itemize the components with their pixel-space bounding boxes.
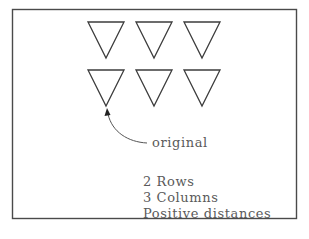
triangle-r1-c2 bbox=[136, 22, 172, 58]
triangle-array bbox=[88, 22, 220, 106]
note-rows: 2 Rows bbox=[143, 174, 194, 189]
array-diagram: original 2 Rows 3 Columns Positive dista… bbox=[0, 0, 309, 239]
callout-arrow bbox=[105, 108, 148, 143]
arrowhead-icon bbox=[105, 108, 111, 116]
note-distances: Positive distances bbox=[143, 206, 271, 221]
triangle-r2-c3 bbox=[184, 70, 220, 106]
triangle-r1-c3 bbox=[184, 22, 220, 58]
note-columns: 3 Columns bbox=[143, 190, 218, 205]
triangle-r1-c1 bbox=[88, 22, 124, 58]
callout-curve bbox=[108, 114, 147, 143]
triangle-r2-c2 bbox=[136, 70, 172, 106]
callout-label: original bbox=[152, 135, 208, 150]
triangle-original bbox=[88, 70, 124, 106]
